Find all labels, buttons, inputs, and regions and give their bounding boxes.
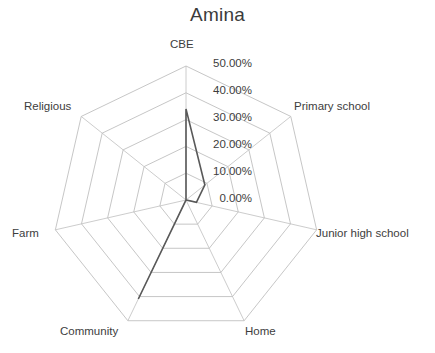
axis-label-cbe: CBE <box>170 38 194 50</box>
tick-label-50: 50.00% <box>213 57 252 69</box>
radar-chart: Amina CBEPrimary schoolJunior high schoo… <box>0 0 435 353</box>
tick-label-30: 30.00% <box>213 111 252 123</box>
axis-label-farm: Farm <box>12 227 39 239</box>
tick-label-40: 40.00% <box>213 84 252 96</box>
tick-label-0: 0.00% <box>219 192 252 204</box>
axis-label-home: Home <box>245 325 276 337</box>
axis-spoke <box>186 200 244 321</box>
axis-label-junior-high-school: Junior high school <box>316 227 409 239</box>
axis-spoke <box>186 116 291 200</box>
axis-label-primary-school: Primary school <box>294 100 370 112</box>
axis-label-religious: Religious <box>24 100 71 112</box>
tick-label-20: 20.00% <box>213 138 252 150</box>
axis-spoke <box>81 116 186 200</box>
axis-label-community: Community <box>60 325 118 337</box>
axis-spoke <box>55 200 186 230</box>
tick-label-10: 10.00% <box>213 165 252 177</box>
axis-spoke <box>186 200 317 230</box>
